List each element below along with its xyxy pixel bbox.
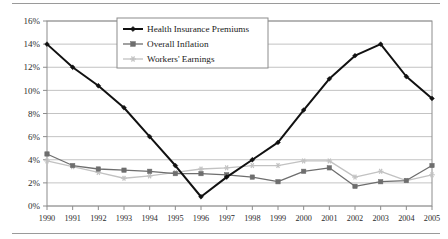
data-point-marker (198, 167, 204, 172)
x-axis-tick-label: 1996 (193, 214, 209, 223)
x-axis-tick-labels: 1990199119921993199419951996199719981999… (39, 214, 440, 223)
x-axis-tick-label: 1992 (90, 214, 106, 223)
chart-legend[interactable]: Health Insurance PremiumsOverall Inflati… (117, 18, 268, 68)
series-line (47, 154, 432, 186)
data-point-marker (173, 171, 177, 175)
x-axis-tick-label: 1990 (39, 214, 55, 223)
data-point-marker (301, 158, 307, 163)
data-point-marker (404, 178, 408, 182)
legend-label: Workers' Earnings (147, 54, 215, 64)
figure-container: 0%2%4%6%8%10%12%14%16% 19901991199219931… (0, 0, 448, 239)
data-point-marker (250, 175, 254, 179)
y-axis-tick-label: 12% (24, 62, 41, 72)
series-line (47, 161, 432, 181)
top-horizontal-rule (12, 3, 440, 4)
data-point-marker (275, 163, 281, 168)
data-point-marker (301, 169, 305, 173)
data-point-marker (250, 163, 256, 168)
y-axis-tick-label: 0% (28, 201, 41, 211)
y-axis-tick-label: 4% (28, 155, 41, 165)
data-point-marker (147, 169, 151, 173)
legend-label: Overall Inflation (147, 39, 209, 49)
y-axis-tick-label: 16% (24, 16, 41, 26)
data-point-marker (45, 152, 49, 156)
y-axis-tick-label: 14% (24, 39, 41, 49)
x-axis-tick-label: 1999 (270, 214, 286, 223)
x-axis-tick-label: 2004 (398, 214, 414, 223)
x-axis-tick-label: 2000 (295, 214, 311, 223)
legend-label: Health Insurance Premiums (147, 24, 249, 34)
x-axis-tick-label: 1991 (64, 214, 80, 223)
y-axis-tick-label: 10% (24, 86, 41, 96)
data-point-marker (224, 165, 230, 170)
bottom-horizontal-rule (12, 233, 440, 234)
data-point-marker (327, 166, 331, 170)
x-axis-tick-label: 2005 (424, 214, 440, 223)
y-axis-tick-label: 6% (28, 132, 41, 142)
x-axis-tick-label: 2001 (321, 214, 337, 223)
data-point-marker (430, 163, 434, 167)
x-axis-tick-label: 1998 (244, 214, 260, 223)
data-point-marker (276, 180, 280, 184)
data-point-marker (378, 169, 384, 174)
x-axis-tick-marks (47, 206, 432, 210)
x-axis-tick-label: 1995 (167, 214, 183, 223)
data-point-marker (121, 176, 127, 181)
data-point-marker (122, 168, 126, 172)
x-axis-tick-label: 1997 (218, 214, 234, 223)
x-axis-tick-label: 2002 (347, 214, 363, 223)
line-chart: 0%2%4%6%8%10%12%14%16% 19901991199219931… (0, 8, 448, 230)
x-axis-tick-label: 1993 (116, 214, 132, 223)
chart-svg: 0%2%4%6%8%10%12%14%16% 19901991199219931… (0, 8, 448, 230)
y-axis-tick-label: 2% (28, 178, 41, 188)
y-axis-tick-labels: 0%2%4%6%8%10%12%14%16% (24, 16, 48, 211)
y-axis-tick-label: 8% (28, 109, 41, 119)
data-point-marker (353, 184, 357, 188)
data-point-marker (96, 167, 100, 171)
data-point-marker (70, 163, 74, 167)
data-point-marker (378, 180, 382, 184)
data-point-marker (147, 174, 153, 179)
series-workers-earnings (44, 158, 435, 183)
data-point-marker (131, 42, 136, 47)
x-axis-tick-label: 2003 (372, 214, 388, 223)
data-point-marker (199, 171, 203, 175)
x-axis-tick-label: 1994 (141, 214, 157, 223)
